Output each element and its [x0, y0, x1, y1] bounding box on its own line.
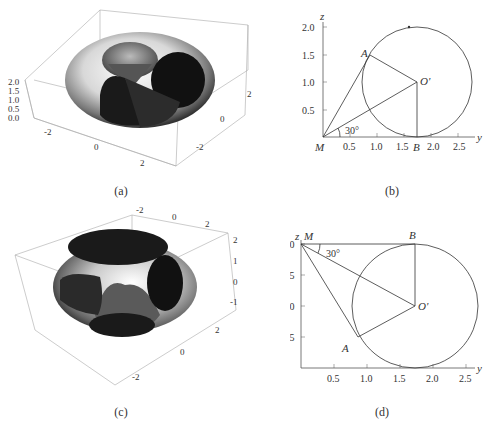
svg-text:y: y: [476, 131, 482, 143]
y-ticks: 0.5 1.0 1.5 2.0 2.5: [327, 373, 472, 384]
svg-text:1.5: 1.5: [393, 373, 406, 384]
svg-text:y: y: [476, 362, 482, 374]
svg-text:2.5: 2.5: [459, 373, 472, 384]
svg-text:M: M: [303, 230, 314, 242]
svg-text:0.5: 0.5: [343, 141, 356, 152]
svg-text:z: z: [319, 10, 325, 22]
caption-d: (d): [362, 405, 402, 420]
svg-text:0.0: 0.0: [8, 113, 20, 123]
panel-b-geometry: 2.0 1.5 1.0 0.5 0.5 1.0 1.5 2.0 2.5 z y …: [290, 0, 498, 200]
y-ticks: 0.5 1.0 1.5 2.0 2.5: [343, 141, 466, 152]
svg-text:A: A: [341, 342, 349, 354]
svg-text:1.0: 1.0: [302, 77, 315, 88]
svg-text:2.5: 2.5: [453, 141, 466, 152]
disc-right: [147, 255, 183, 311]
svg-text:-1: -1: [230, 297, 238, 307]
disc-top: [68, 229, 168, 265]
z-axis-ticks: 2 1 0 -1: [230, 235, 238, 307]
caption-a: (a): [101, 184, 141, 199]
svg-text:1.5: 1.5: [302, 50, 315, 61]
svg-text:-2: -2: [44, 127, 52, 137]
construction-lines: [323, 55, 417, 137]
front-axis-ticks: -2 0 2: [44, 127, 145, 168]
z-axis-ticks: 2.0 1.5 1.0 0.5 0.0: [8, 77, 20, 123]
svg-text:A: A: [360, 47, 368, 59]
z-ticks: 2.0 1.5 1.0 0.5: [290, 239, 295, 343]
axes: [301, 240, 475, 368]
svg-text:1.5: 1.5: [396, 141, 409, 152]
svg-text:1.0: 1.0: [360, 373, 373, 384]
caption-c: (c): [101, 405, 141, 420]
angle-label: 30°: [345, 125, 359, 136]
svg-text:2: 2: [140, 158, 145, 168]
svg-text:0: 0: [172, 212, 177, 222]
svg-text:1.5: 1.5: [290, 270, 295, 281]
svg-text:2.0: 2.0: [426, 373, 439, 384]
svg-text:0: 0: [233, 277, 238, 287]
svg-text:2: 2: [233, 235, 238, 245]
svg-text:2.0: 2.0: [290, 239, 295, 250]
svg-text:M: M: [314, 141, 325, 153]
svg-text:0: 0: [220, 114, 225, 124]
top-axis-ticks: -2 0 2: [136, 205, 210, 229]
svg-text:1: 1: [233, 256, 238, 266]
svg-text:2.0: 2.0: [427, 141, 440, 152]
svg-text:-2: -2: [136, 205, 144, 215]
svg-text:z: z: [294, 230, 300, 242]
svg-text:B: B: [409, 229, 416, 241]
svg-text:0.5: 0.5: [290, 332, 295, 343]
panel-c-3d-plot: -2 0 2 2 1 0 -1 2 0 -2: [0, 205, 260, 395]
svg-text:0: 0: [94, 142, 99, 152]
labels: z y M A O' B: [294, 229, 482, 374]
svg-text:2: 2: [205, 219, 210, 229]
svg-text:1.0: 1.0: [290, 301, 295, 312]
svg-text:-2: -2: [132, 372, 140, 382]
svg-text:2: 2: [247, 89, 252, 99]
svg-text:0.5: 0.5: [302, 105, 315, 116]
svg-text:O': O': [418, 300, 429, 312]
panel-a-3d-plot: 2.0 1.5 1.0 0.5 0.0 -2 0 2 2 0 -2: [0, 0, 260, 200]
svg-text:0: 0: [180, 347, 185, 357]
svg-text:0.5: 0.5: [327, 373, 340, 384]
angle-label: 30°: [326, 248, 340, 259]
construction-lines: [301, 244, 415, 337]
disc-bottom: [89, 313, 155, 337]
panel-d-geometry: 2.0 1.5 1.0 0.5 0.5 1.0 1.5 2.0 2.5 z y …: [290, 220, 498, 400]
svg-text:2.0: 2.0: [302, 22, 315, 33]
svg-text:-2: -2: [196, 142, 204, 152]
z-ticks: 2.0 1.5 1.0 0.5: [302, 22, 315, 116]
caption-b: (b): [372, 184, 412, 199]
svg-text:O': O': [420, 75, 431, 87]
svg-text:2: 2: [215, 325, 220, 335]
svg-text:B: B: [413, 141, 420, 153]
svg-text:1.0: 1.0: [370, 141, 383, 152]
